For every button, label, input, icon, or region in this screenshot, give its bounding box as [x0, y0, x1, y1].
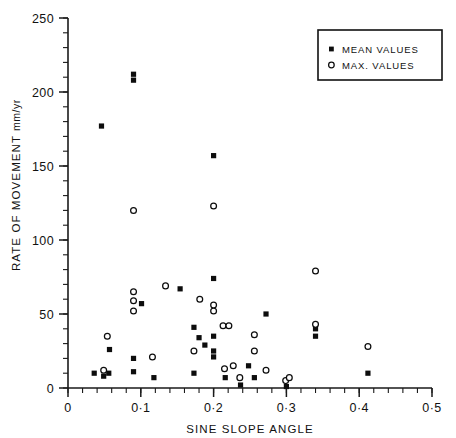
x-axis-tick-label: 0 — [64, 401, 71, 415]
data-point-mean — [131, 78, 136, 83]
data-point-mean — [151, 375, 156, 380]
data-point-max — [211, 302, 217, 308]
legend-marker-mean-square-icon — [329, 47, 334, 52]
data-point-max — [237, 375, 243, 381]
data-point-mean — [92, 371, 97, 376]
data-point-max — [313, 321, 319, 327]
data-point-mean — [223, 375, 228, 380]
data-point-max — [131, 208, 137, 214]
data-point-max — [286, 375, 292, 381]
x-axis-tick-label: 0·3 — [277, 401, 296, 415]
y-axis-tick-label: 200 — [32, 86, 54, 100]
data-point-max — [365, 344, 371, 350]
data-point-mean — [211, 334, 216, 339]
data-point-max — [131, 308, 137, 314]
data-point-max — [191, 348, 197, 354]
data-point-mean — [284, 384, 289, 389]
data-point-mean — [101, 374, 106, 379]
data-point-max — [131, 298, 137, 304]
data-point-mean — [191, 325, 196, 330]
y-axis-title-group: RATE OF MOVEMENT mm/yr — [10, 99, 22, 271]
data-point-max — [251, 348, 257, 354]
y-axis-tick-label: 0 — [47, 382, 54, 396]
data-point-max — [150, 354, 156, 360]
data-point-max — [211, 308, 217, 314]
y-axis-tick-label: 100 — [32, 234, 54, 248]
data-point-max — [263, 367, 269, 373]
data-point-mean — [202, 342, 207, 347]
data-point-mean — [131, 369, 136, 374]
x-axis-title: SINE SLOPE ANGLE — [186, 423, 314, 435]
data-point-max — [226, 323, 232, 329]
data-point-max — [197, 296, 203, 302]
y-axis-tick-label: 150 — [32, 160, 54, 174]
series-max-values — [101, 203, 371, 383]
x-axis-tick-label: 0·1 — [131, 401, 150, 415]
data-point-mean — [252, 375, 257, 380]
data-point-mean — [313, 334, 318, 339]
y-axis-tick-label: 250 — [32, 12, 54, 26]
data-point-max — [104, 333, 110, 339]
data-point-mean — [211, 354, 216, 359]
y-axis-title: RATE OF MOVEMENT — [10, 135, 22, 271]
data-point-mean — [196, 335, 201, 340]
x-axis-tick-label: 0·5 — [422, 401, 441, 415]
data-point-mean — [211, 348, 216, 353]
data-point-max — [163, 283, 169, 289]
scatter-plot-figure: 00·10·20·30·40·5050100150200250SINE SLOP… — [0, 0, 456, 438]
data-point-max — [211, 203, 217, 209]
x-axis-tick-label: 0·2 — [204, 401, 223, 415]
data-point-max — [230, 363, 236, 369]
legend-box — [318, 30, 442, 80]
x-axis-tick-label: 0·4 — [350, 401, 369, 415]
data-point-mean — [131, 356, 136, 361]
data-point-mean — [263, 311, 268, 316]
data-point-mean — [131, 72, 136, 77]
legend: MEAN VALUESMAX. VALUES — [318, 30, 442, 80]
data-point-mean — [238, 382, 243, 387]
data-point-max — [131, 289, 137, 295]
data-point-max — [220, 323, 226, 329]
data-point-max — [101, 367, 107, 373]
series-mean-values — [92, 72, 371, 389]
data-point-max — [222, 366, 228, 372]
data-point-mean — [246, 363, 251, 368]
legend-label: MEAN VALUES — [342, 44, 419, 55]
data-point-mean — [191, 371, 196, 376]
y-axis-tick-label: 50 — [39, 308, 54, 322]
data-point-mean — [139, 301, 144, 306]
data-point-max — [251, 332, 257, 338]
data-point-mean — [211, 276, 216, 281]
data-point-mean — [211, 153, 216, 158]
data-point-mean — [107, 347, 112, 352]
legend-label: MAX. VALUES — [342, 60, 415, 71]
y-axis-units-label: mm/yr — [10, 99, 22, 131]
data-point-mean — [365, 371, 370, 376]
legend-marker-max-circle-icon — [329, 62, 335, 68]
plot-canvas: 00·10·20·30·40·5050100150200250SINE SLOP… — [0, 0, 456, 438]
data-point-max — [313, 268, 319, 274]
data-points-layer — [92, 72, 371, 389]
data-point-mean — [99, 123, 104, 128]
data-point-mean — [178, 286, 183, 291]
